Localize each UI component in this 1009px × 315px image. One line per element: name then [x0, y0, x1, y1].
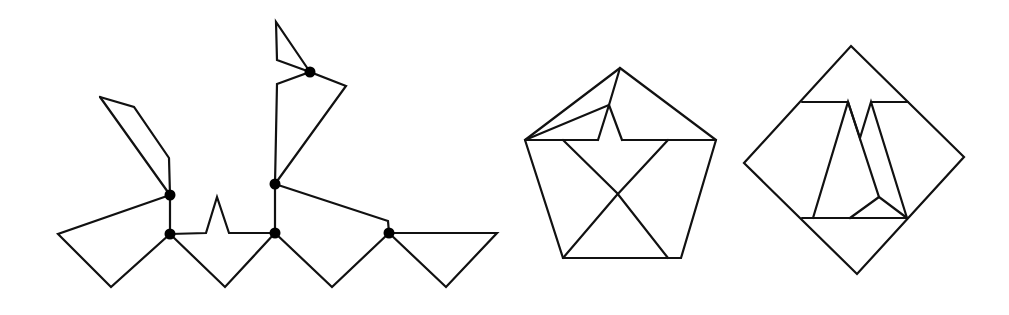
hinged-dissection-edge [275, 184, 389, 233]
hinge-node [270, 179, 281, 190]
pentagon-edge [563, 140, 668, 258]
square-edge [813, 102, 907, 218]
figure-svg [0, 0, 1009, 315]
pentagon-edge [609, 105, 622, 140]
hinged-dissection-edge [389, 233, 497, 287]
hinge-node [270, 228, 281, 239]
hinged-dissection-edge [275, 233, 389, 287]
dissection-figure [0, 0, 1009, 315]
hinged-dissection-edge [275, 72, 346, 184]
hinge-node [305, 67, 316, 78]
hinged-dissection-edge [170, 233, 275, 287]
square-edge [744, 46, 964, 274]
square-edge [850, 197, 879, 218]
square-panel [744, 46, 964, 274]
hinged-dissection-edge [276, 22, 310, 72]
hinged-dissection-edge [58, 195, 170, 287]
pentagon-edge [525, 68, 716, 258]
pentagon-edge [598, 105, 609, 140]
hinge-node [384, 228, 395, 239]
hinged-dissection-panel [58, 22, 497, 287]
hinge-node [165, 190, 176, 201]
pentagon-panel [525, 68, 716, 258]
hinged-dissection-edge [170, 197, 275, 234]
hinge-node [165, 229, 176, 240]
